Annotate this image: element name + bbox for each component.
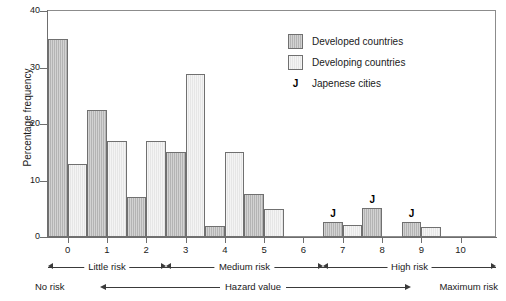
- x-tick-mark: [186, 238, 187, 243]
- bar-developed-2: [127, 197, 147, 237]
- hazard-value-axis-row: No risk Hazard value Maximum risk: [0, 280, 506, 294]
- bar-developing-7: [343, 225, 363, 237]
- x-axis-line: [47, 237, 497, 238]
- x-tick-mark: [264, 238, 265, 243]
- legend-j-marker-icon: J: [288, 78, 303, 89]
- x-tick-label: 1: [95, 244, 119, 255]
- y-tick-mark: [40, 68, 47, 69]
- bar-developed-9: [402, 222, 422, 237]
- y-axis-label: Percentage frequency: [22, 43, 33, 193]
- bar-developed-7: [323, 222, 343, 237]
- range-high-risk: High risk: [323, 261, 496, 274]
- arrow-left-icon: [166, 263, 171, 269]
- range-little-risk-label: Little risk: [84, 261, 129, 273]
- x-tick-mark: [421, 238, 422, 243]
- x-tick-mark: [225, 238, 226, 243]
- range-high-risk-label: High risk: [387, 261, 432, 273]
- bar-developing-2: [146, 141, 166, 237]
- x-tick-label: 10: [449, 244, 473, 255]
- bar-developing-0: [68, 164, 88, 237]
- x-tick-label: 4: [213, 244, 237, 255]
- maximum-risk-label: Maximum risk: [439, 280, 498, 293]
- x-tick-mark: [382, 238, 383, 243]
- legend-swatch-developed-icon: [288, 34, 303, 49]
- arrow-left-icon: [323, 263, 328, 269]
- japanese-city-marker-8: J: [365, 195, 379, 205]
- x-tick-mark: [343, 238, 344, 243]
- y-tick-label: 40: [30, 6, 40, 15]
- legend-label-developed: Developed countries: [312, 36, 403, 47]
- y-tick-mark: [40, 11, 47, 12]
- x-tick-label: 6: [291, 244, 315, 255]
- range-medium-risk: Medium risk: [166, 261, 323, 274]
- bar-developed-8: [362, 208, 382, 237]
- x-tick-mark: [68, 238, 69, 243]
- bar-developing-1: [107, 141, 127, 237]
- risk-range-row: Little risk Medium risk High risk: [0, 261, 506, 274]
- x-tick-label: 0: [56, 244, 80, 255]
- y-tick-label: 0: [35, 232, 40, 241]
- legend-label-japanese-cities: Japenese cities: [312, 78, 381, 89]
- bar-developing-5: [264, 209, 284, 237]
- x-tick-mark: [146, 238, 147, 243]
- arrow-left-icon: [48, 263, 53, 269]
- x-tick-mark: [107, 238, 108, 243]
- range-medium-risk-label: Medium risk: [215, 261, 274, 273]
- legend-swatch-developing-icon: [288, 55, 303, 70]
- x-tick-label: 3: [174, 244, 198, 255]
- arrow-right-icon: [405, 284, 411, 290]
- range-little-risk: Little risk: [48, 261, 166, 274]
- x-tick-label: 9: [409, 244, 433, 255]
- arrow-right-icon: [491, 263, 496, 269]
- legend-label-developing: Developing countries: [312, 57, 405, 68]
- bar-developed-3: [166, 152, 186, 237]
- legend-item-developing: Developing countries: [288, 52, 448, 73]
- y-tick-mark: [40, 181, 47, 182]
- japanese-city-marker-9: J: [405, 209, 419, 219]
- y-tick-mark: [40, 124, 47, 125]
- bar-developed-1: [87, 110, 107, 237]
- hazard-value-label: Hazard value: [220, 280, 286, 293]
- x-tick-label: 5: [252, 244, 276, 255]
- bar-developing-3: [186, 74, 206, 237]
- x-tick-label: 2: [134, 244, 158, 255]
- x-tick-mark: [303, 238, 304, 243]
- x-tick-label: 7: [331, 244, 355, 255]
- x-tick-mark: [461, 238, 462, 243]
- no-risk-label: No risk: [35, 280, 65, 293]
- chart-legend: Developed countries Developing countries…: [288, 31, 448, 94]
- y-tick-mark: [40, 237, 47, 238]
- legend-item-developed: Developed countries: [288, 31, 448, 52]
- bar-developed-0: [48, 39, 68, 237]
- bar-developed-5: [244, 194, 264, 238]
- hazard-value-histogram-figure: 010203040 Percentage frequency JJJ 01234…: [0, 0, 506, 301]
- bar-developed-4: [205, 226, 225, 237]
- legend-item-japanese-cities: J Japenese cities: [288, 73, 448, 94]
- x-tick-label: 8: [370, 244, 394, 255]
- bar-developing-9: [421, 227, 441, 237]
- japanese-city-marker-7: J: [326, 209, 340, 219]
- bar-developing-4: [225, 152, 245, 237]
